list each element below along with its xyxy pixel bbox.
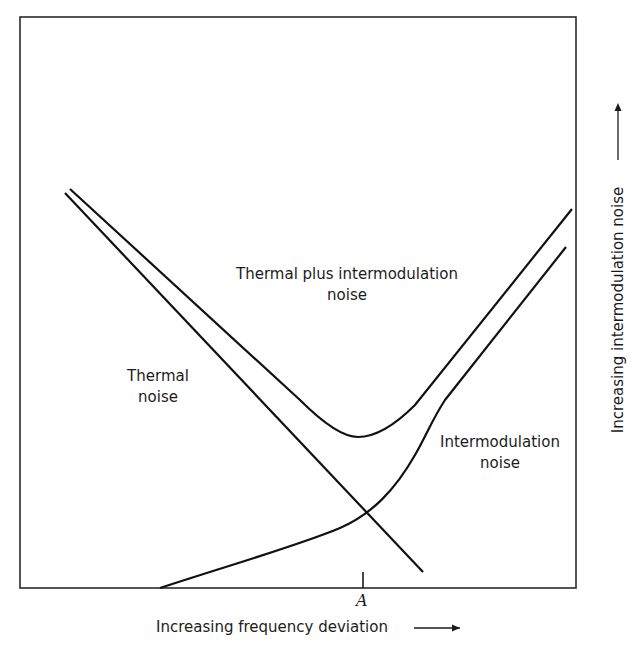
intermod-label-line2: noise bbox=[430, 453, 570, 474]
y-axis-label-wrap: Increasing intermodulation noise bbox=[607, 172, 629, 448]
y-axis-label: Increasing intermodulation noise bbox=[609, 187, 627, 433]
combined-label: Thermal plus intermodulation noise bbox=[220, 264, 474, 306]
intermod-label-line1: Intermodulation bbox=[430, 432, 570, 453]
combined-label-line1: Thermal plus intermodulation bbox=[220, 264, 474, 285]
combined-label-line2: noise bbox=[220, 285, 474, 306]
y-axis-arrowhead-icon bbox=[615, 103, 622, 111]
diagram-canvas bbox=[0, 0, 641, 649]
intermod-label: Intermodulation noise bbox=[430, 432, 570, 474]
x-axis-arrowhead-icon bbox=[452, 625, 460, 632]
thermal-label-line2: noise bbox=[118, 387, 198, 408]
x-axis-label: Increasing frequency deviation bbox=[156, 617, 408, 638]
thermal-label-line1: Thermal bbox=[118, 366, 198, 387]
tick-a-label: A bbox=[356, 591, 368, 610]
thermal-label: Thermal noise bbox=[118, 366, 198, 408]
